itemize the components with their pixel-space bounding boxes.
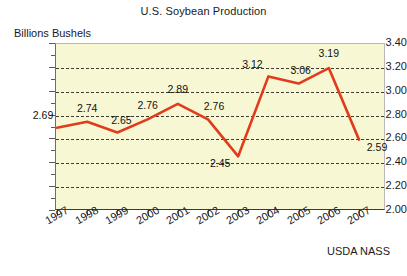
y-tick-label: 3.20	[361, 60, 407, 72]
y-tick-mark-minor	[51, 127, 55, 128]
y-tick-mark	[49, 43, 55, 44]
y-tick-mark-minor	[51, 198, 55, 199]
y-tick-label: 3.40	[361, 36, 407, 48]
y-tick-mark	[49, 67, 55, 68]
x-tick-label: 1997	[43, 204, 70, 227]
data-point-label: 2.59	[367, 141, 387, 153]
y-tick-mark-minor	[51, 174, 55, 175]
y-tick-label: 3.00	[361, 84, 407, 96]
data-point-label: 2.45	[210, 157, 230, 169]
y-axis-label: Billions Bushels	[14, 27, 91, 39]
plot-area	[55, 43, 385, 210]
data-point-label: 2.69	[33, 109, 53, 121]
y-tick-mark	[49, 162, 55, 163]
gridline	[56, 187, 384, 188]
source-label: USDA NASS	[327, 245, 390, 257]
data-point-label: 2.76	[204, 100, 224, 112]
y-tick-mark	[49, 91, 55, 92]
y-tick-mark-minor	[51, 103, 55, 104]
gridline	[56, 116, 384, 117]
data-point-label: 2.65	[111, 114, 131, 126]
chart-title: U.S. Soybean Production	[0, 5, 407, 17]
y-tick-mark-minor	[51, 150, 55, 151]
gridline	[56, 68, 384, 69]
data-point-label: 2.76	[137, 99, 157, 111]
y-tick-label: 2.40	[361, 155, 407, 167]
gridline	[56, 92, 384, 93]
y-tick-mark	[49, 186, 55, 187]
data-point-label: 3.19	[319, 47, 339, 59]
chart-container: U.S. Soybean Production Billions Bushels…	[0, 0, 407, 276]
data-point-label: 2.74	[77, 102, 97, 114]
y-tick-mark-minor	[51, 55, 55, 56]
data-point-label: 2.89	[168, 83, 188, 95]
data-point-label: 3.12	[242, 58, 262, 70]
y-tick-mark	[49, 138, 55, 139]
gridline	[56, 139, 384, 140]
y-tick-label: 2.80	[361, 108, 407, 120]
y-tick-mark-minor	[51, 79, 55, 80]
data-point-label: 3.06	[290, 64, 310, 76]
y-tick-label: 2.20	[361, 179, 407, 191]
